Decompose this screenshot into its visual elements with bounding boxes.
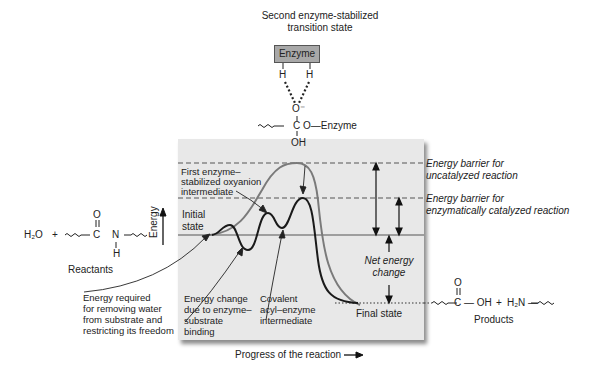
hydroxyl-group: OH <box>291 137 306 149</box>
uncatalyzed-barrier-label-line1: Energy barrier for <box>426 158 504 170</box>
reactant-plus: + <box>52 229 58 241</box>
first-intermediate-line3: intermediate <box>181 186 233 198</box>
enzyme-box: Enzyme <box>274 45 320 63</box>
o-enzyme-group: O—Enzyme <box>303 120 357 132</box>
initial-state-line2: state <box>182 221 204 233</box>
hydrogen-bonds <box>285 82 309 103</box>
binding-note-line2: due to enzyme– <box>184 304 252 316</box>
reactant-nitrogen: N <box>112 229 119 241</box>
initial-state-line1: Initial <box>182 209 205 221</box>
hydrogen-right: H <box>306 69 313 81</box>
catalyzed-barrier-arrow <box>396 198 402 235</box>
energy-axis-label: Energy <box>148 206 160 238</box>
final-state-label: Final state <box>356 308 402 320</box>
reactants-label: Reactants <box>68 264 113 276</box>
wavy-chain-reactant-left <box>65 234 90 237</box>
binding-note-line4: binding <box>184 326 215 338</box>
reactant-carbonyl-o: O <box>93 209 101 221</box>
net-energy-line2: change <box>354 267 424 279</box>
carbon-atom: C <box>293 120 300 132</box>
water-note-line2: for removing water <box>83 303 162 315</box>
water-note-line3: from substrate and <box>83 314 162 326</box>
catalyzed-barrier-label-line2: enzymatically catalyzed reaction <box>426 205 569 217</box>
product-amine: H₂N — <box>507 297 538 309</box>
water-note-line4: restricting its freedom <box>83 325 174 337</box>
product-carbonyl-o: O <box>454 277 462 289</box>
covalent-note-line2: acyl–enzyme <box>260 304 315 316</box>
binding-note-line3: substrate <box>184 315 223 327</box>
reactant-hydrogen: H <box>113 248 120 260</box>
water-molecule: H₂O <box>24 229 43 241</box>
hydrogen-left: H <box>279 69 286 81</box>
progress-axis-arrow <box>344 352 363 358</box>
catalyzed-barrier-label-line1: Energy barrier for <box>426 193 504 205</box>
wavy-chain-top <box>258 125 284 128</box>
net-energy-line1: Net energy <box>354 255 424 267</box>
transition-state-title: Second enzyme-stabilized <box>250 10 390 22</box>
water-note-line1: Energy required <box>83 292 151 304</box>
covalent-note-line3: intermediate <box>260 315 312 327</box>
transition-state-subtitle: transition state <box>250 22 390 34</box>
progress-axis-label: Progress of the reaction <box>235 349 341 361</box>
products-label: Products <box>474 314 513 326</box>
energy-axis-arrow <box>160 208 166 245</box>
oxyanion: O⁻ <box>292 103 305 115</box>
catalyzed-curve <box>212 198 358 303</box>
uncatalyzed-barrier-arrow <box>373 163 379 235</box>
uncatalyzed-barrier-label-line2: uncatalyzed reaction <box>426 170 518 182</box>
product-carboxyl: C — OH <box>454 297 492 309</box>
covalent-note-line1: Covalent <box>260 293 298 305</box>
wavy-chain-reactant-right <box>124 234 147 237</box>
binding-note-line1: Energy change <box>184 293 248 305</box>
product-plus: + <box>496 297 502 309</box>
reactant-carbon: C <box>93 229 100 241</box>
